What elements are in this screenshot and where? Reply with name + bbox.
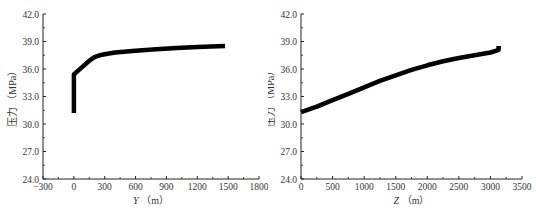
y-tick-label: 36.0	[280, 65, 297, 75]
pressure-vs-y-chart: 24.027.030.033.036.039.042.0−30003006009…	[0, 0, 268, 212]
x-tick-label: 3000	[481, 182, 500, 192]
y-tick-label: 39.0	[22, 37, 39, 47]
y-tick-label: 30.0	[280, 120, 297, 130]
y-tick-label: 42.0	[280, 10, 297, 20]
x-tick-label: 0	[71, 182, 76, 192]
y-tick-label: 36.0	[22, 65, 39, 75]
y-tick-label: 27.0	[22, 147, 39, 157]
x-tick-label: 1500	[386, 182, 405, 192]
pressure-vs-z-chart: 24.027.030.033.036.039.042.0050010001500…	[268, 0, 536, 212]
y-tick-label: 33.0	[22, 92, 39, 102]
x-tick-label: 500	[325, 182, 340, 192]
x-tick-label: 300	[98, 182, 113, 192]
y-tick-label: 39.0	[280, 37, 297, 47]
chart-left-plot: 24.027.030.033.036.039.042.0−30003006009…	[0, 0, 268, 212]
data-line	[301, 46, 499, 112]
x-tick-label: 2500	[449, 182, 468, 192]
x-tick-label: 900	[159, 182, 174, 192]
x-tick-label: 1800	[250, 182, 269, 192]
y-tick-label: 30.0	[22, 120, 39, 130]
y-tick-label: 24.0	[280, 175, 297, 185]
x-tick-label: −300	[33, 182, 53, 192]
data-line	[74, 46, 225, 113]
x-tick-label: 1000	[355, 182, 374, 192]
y-tick-label: 27.0	[280, 147, 297, 157]
y-tick-label: 42.0	[22, 10, 39, 20]
x-tick-label: 2000	[418, 182, 437, 192]
y-axis-label: 压力 （MPa）	[268, 66, 276, 127]
y-axis-label: 压力 （MPa）	[6, 66, 18, 127]
x-tick-label: 0	[299, 182, 304, 192]
x-tick-label: 1200	[188, 182, 207, 192]
x-tick-label: 3500	[513, 182, 532, 192]
x-tick-label: 600	[128, 182, 143, 192]
x-axis-label: Y （m）	[133, 195, 169, 206]
y-tick-label: 33.0	[280, 92, 297, 102]
chart-right-plot: 24.027.030.033.036.039.042.0050010001500…	[268, 0, 536, 212]
x-tick-label: 1500	[219, 182, 238, 192]
x-axis-label: Z （m）	[394, 195, 430, 206]
